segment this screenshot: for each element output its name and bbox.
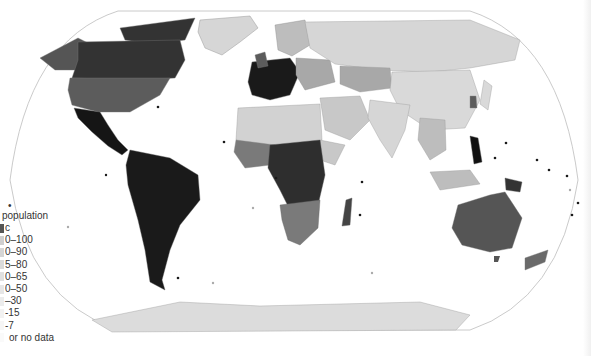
legend-item: 0–65 xyxy=(0,271,80,283)
legend-swatch xyxy=(0,236,4,245)
legend-item: 5–80 xyxy=(0,259,80,271)
legend-swatch xyxy=(0,224,4,233)
legend-swatch xyxy=(0,285,4,294)
legend-subtitle-row: c xyxy=(0,222,80,234)
legend-swatch xyxy=(0,248,4,257)
region-korea[interactable] xyxy=(470,96,477,108)
legend-item: -15 xyxy=(0,307,80,319)
legend-item: 0–50 xyxy=(0,283,80,295)
legend-swatch xyxy=(0,297,4,306)
legend-item: or no data xyxy=(0,332,80,344)
legend-marker: • xyxy=(8,200,80,210)
legend-item: 0–90 xyxy=(0,246,80,258)
right-edge-shadow xyxy=(583,0,591,356)
region-russia[interactable] xyxy=(305,20,520,72)
region-canada[interactable] xyxy=(72,40,185,80)
legend-subtitle: c xyxy=(5,222,10,234)
legend: • population c 0–100 0–90 5–80 0–65 0–50… xyxy=(0,200,80,344)
legend-swatch xyxy=(0,260,4,269)
legend-item: 0–100 xyxy=(0,234,80,246)
legend-swatch xyxy=(0,321,4,330)
world-map xyxy=(0,0,591,356)
legend-title: population xyxy=(2,210,80,222)
legend-swatch xyxy=(0,333,4,342)
legend-item: -7 xyxy=(0,320,80,332)
legend-swatch xyxy=(0,309,4,318)
legend-item: –30 xyxy=(0,295,80,307)
legend-swatch xyxy=(0,272,4,281)
